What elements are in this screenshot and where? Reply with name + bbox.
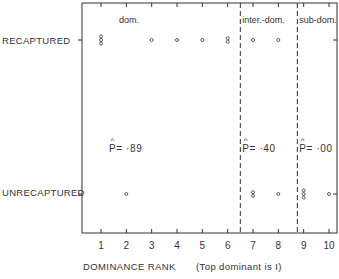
point-unrecaptured bbox=[252, 191, 255, 194]
x-tick-label: 5 bbox=[200, 240, 206, 251]
x-tick-label: 4 bbox=[174, 240, 180, 251]
x-tick-label: 8 bbox=[276, 240, 282, 251]
x-tick-label: 6 bbox=[225, 240, 231, 251]
point-unrecaptured bbox=[328, 193, 331, 196]
x-tick-label: 1 bbox=[98, 240, 104, 251]
point-recaptured bbox=[226, 37, 229, 40]
p-hat-caret: ^ bbox=[244, 136, 248, 145]
p-hat-caret: ^ bbox=[111, 136, 115, 145]
plot-frame bbox=[82, 3, 337, 233]
point-recaptured bbox=[150, 39, 153, 42]
point-recaptured bbox=[201, 39, 204, 42]
point-recaptured bbox=[277, 39, 280, 42]
point-unrecaptured bbox=[302, 189, 305, 192]
point-unrecaptured bbox=[277, 193, 280, 196]
x-tick-label: 7 bbox=[250, 240, 256, 251]
point-unrecaptured bbox=[302, 196, 305, 199]
group-label: inter.-dom. bbox=[242, 15, 285, 25]
point-unrecaptured bbox=[252, 194, 255, 197]
x-tick-label: 3 bbox=[149, 240, 155, 251]
point-recaptured bbox=[100, 42, 103, 45]
point-unrecaptured bbox=[125, 193, 128, 196]
x-tick-label: 10 bbox=[323, 240, 335, 251]
point-unrecaptured bbox=[302, 193, 305, 196]
point-recaptured bbox=[176, 39, 179, 42]
y-label-unrecaptured: UNRECAPTURED bbox=[2, 187, 85, 198]
x-tick-label: 2 bbox=[124, 240, 130, 251]
point-recaptured bbox=[100, 35, 103, 38]
group-label: sub-dom. bbox=[299, 15, 337, 25]
x-tick-label: 9 bbox=[301, 240, 307, 251]
group-label: dom. bbox=[119, 15, 139, 25]
point-recaptured bbox=[252, 39, 255, 42]
x-axis-note: (Top dominant is I) bbox=[196, 261, 282, 272]
x-axis-label: DOMINANCE RANK bbox=[83, 261, 176, 272]
y-label-recaptured: RECAPTURED bbox=[2, 35, 70, 46]
p-hat-caret: ^ bbox=[301, 136, 305, 145]
recapture-by-dominance-chart: 12345678910 dom.P= ·89^inter.-dom.P= ·40… bbox=[0, 0, 339, 279]
point-recaptured bbox=[226, 40, 229, 43]
point-recaptured bbox=[100, 39, 103, 42]
